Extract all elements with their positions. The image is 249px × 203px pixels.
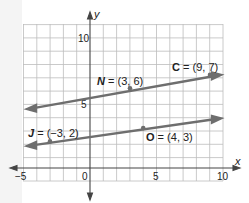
tick-x-10: 10 bbox=[217, 171, 229, 182]
grid bbox=[23, 24, 223, 181]
line-nc-arrow-left-icon bbox=[27, 105, 36, 112]
label-o: O = (4, 3) bbox=[146, 131, 193, 143]
tick-x-neg5: −5 bbox=[15, 171, 27, 182]
label-c: C = (9, 7) bbox=[172, 61, 218, 73]
label-j: J = (−3, 2) bbox=[28, 127, 79, 139]
point-o bbox=[141, 126, 146, 131]
label-n: N = (3, 6) bbox=[97, 75, 143, 87]
tick-x-0: 0 bbox=[82, 171, 88, 182]
tick-y-10: 10 bbox=[78, 33, 90, 44]
line-jo-arrow-right-icon bbox=[212, 116, 221, 123]
tick-x-5: 5 bbox=[153, 171, 159, 182]
coordinate-plane: −5 0 5 10 5 10 x y N = (3, 6) C = (9, 7)… bbox=[0, 0, 249, 203]
point-j bbox=[48, 139, 53, 144]
y-axis-arrow-up-icon bbox=[88, 12, 93, 19]
y-axis-label: y bbox=[93, 8, 101, 20]
y-axis-arrow-down-icon bbox=[88, 193, 93, 200]
x-axis-arrow-left-icon bbox=[10, 166, 17, 171]
x-axis-label: x bbox=[234, 155, 241, 167]
point-c bbox=[208, 73, 213, 78]
line-jo-arrow-left-icon bbox=[27, 142, 36, 149]
